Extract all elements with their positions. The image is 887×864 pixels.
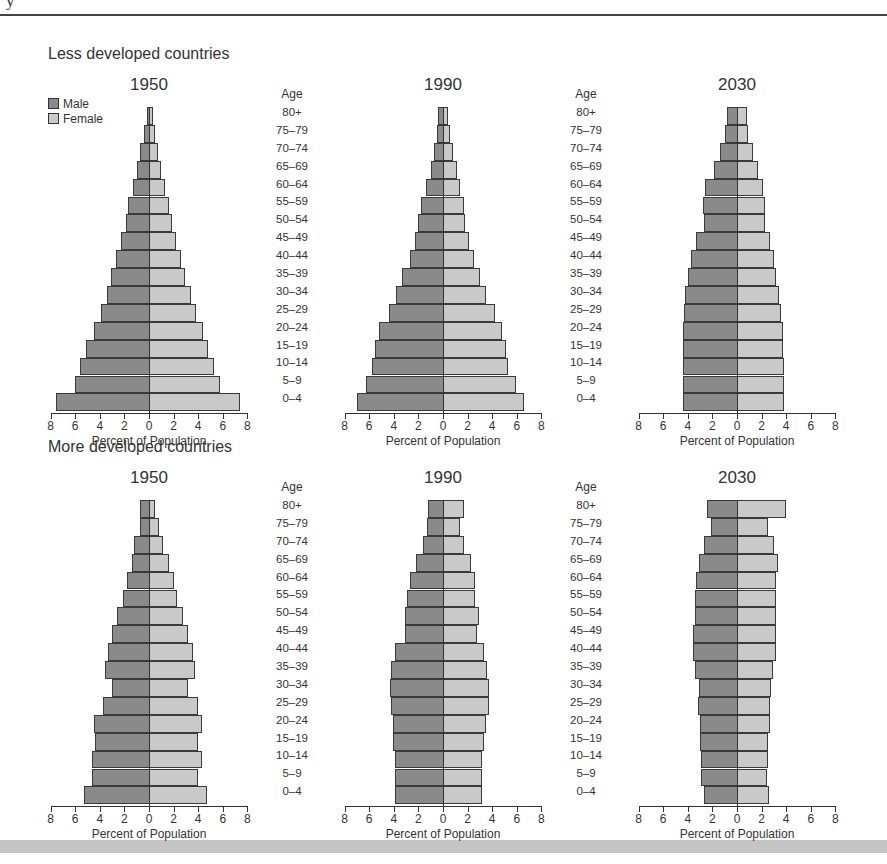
bar-male [92, 751, 150, 769]
bar-male [395, 751, 444, 769]
bar-female [443, 197, 464, 215]
x-axis-tick-label: 4 [482, 812, 502, 826]
bar-male [94, 715, 150, 733]
bar-male [693, 625, 738, 643]
bar-female [737, 643, 776, 661]
bar-male [92, 769, 150, 787]
female-swatch-icon [48, 113, 59, 124]
bar-female [149, 214, 172, 232]
x-axis-tick-label: 4 [90, 812, 110, 826]
age-label: 45–49 [556, 622, 616, 640]
bar-male [683, 376, 738, 394]
bar-female [443, 661, 487, 679]
bar-female [737, 250, 774, 268]
x-axis-tick-label: 2 [702, 419, 722, 433]
bar-female [149, 607, 183, 625]
header-rule [0, 14, 887, 16]
bar-male [705, 179, 738, 197]
panel-year-title: 1950 [49, 468, 249, 488]
bar-female [443, 536, 464, 554]
x-axis-tick-label: 4 [678, 419, 698, 433]
bar-female [149, 161, 161, 179]
bar-female [443, 232, 469, 250]
bar-female [149, 786, 207, 804]
bar-male [103, 697, 150, 715]
x-axis-tick-label: 4 [90, 419, 110, 433]
bar-male [416, 554, 444, 572]
age-label: 70–74 [556, 533, 616, 551]
clipped-header-text: y [6, 0, 15, 11]
x-axis-tick-label: 2 [752, 812, 772, 826]
bar-male [402, 268, 444, 286]
bar-female [737, 661, 773, 679]
panel-year-title: 2030 [637, 75, 837, 95]
x-axis-tick-label: 4 [482, 419, 502, 433]
age-label: 55–59 [556, 193, 616, 211]
bar-male [123, 590, 150, 608]
bar-female [443, 214, 465, 232]
bar-female [443, 322, 502, 340]
bar-female [443, 376, 516, 394]
bar-male [703, 197, 738, 215]
bar-female [737, 500, 786, 518]
x-axis-tick-label: 0 [433, 812, 453, 826]
age-label: 10–14 [556, 354, 616, 372]
bar-male [683, 322, 738, 340]
bar-female [443, 500, 464, 518]
x-axis-tick-label: 8 [629, 812, 649, 826]
age-label: 10–14 [262, 354, 322, 372]
x-axis-tick-label: 0 [139, 812, 159, 826]
age-label: 80+ [556, 497, 616, 515]
age-label: 15–19 [556, 730, 616, 748]
bar-female [737, 733, 768, 751]
bar-male [700, 715, 738, 733]
center-axis-line [149, 500, 150, 806]
bar-male [699, 554, 738, 572]
bar-male [128, 197, 150, 215]
x-axis-title: Percent of Population [637, 434, 837, 448]
center-axis-line [737, 500, 738, 806]
age-label: 65–69 [556, 551, 616, 569]
age-label: 5–9 [262, 765, 322, 783]
x-axis-tick-label: 2 [114, 419, 134, 433]
bar-male [105, 661, 150, 679]
bar-male [699, 679, 738, 697]
bar-female [737, 161, 758, 179]
bar-female [443, 143, 453, 161]
bar-male [80, 358, 150, 376]
x-axis-tick-label: 6 [359, 812, 379, 826]
age-label: 5–9 [556, 372, 616, 390]
bar-male [701, 769, 738, 787]
bar-female [149, 643, 193, 661]
bar-male [410, 250, 444, 268]
x-axis-title: Percent of Population [343, 827, 543, 841]
bar-female [443, 679, 489, 697]
x-axis-tick-label: 6 [507, 812, 527, 826]
age-label: 10–14 [556, 747, 616, 765]
bar-female [443, 518, 460, 536]
age-axis-labels: 80+75–7970–7465–6960–6455–5950–5445–4940… [556, 104, 616, 408]
bar-female [149, 340, 208, 358]
bar-female [443, 643, 484, 661]
bar-male [704, 536, 738, 554]
bar-female [737, 286, 779, 304]
bar-female [737, 304, 781, 322]
bar-male [127, 572, 150, 590]
x-axis-tick-label: 8 [41, 812, 61, 826]
age-label: 25–29 [262, 301, 322, 319]
x-axis-tick-label: 0 [727, 812, 747, 826]
age-label: 45–49 [556, 229, 616, 247]
age-label: 5–9 [262, 372, 322, 390]
age-label: 65–69 [262, 158, 322, 176]
bar-male [134, 536, 150, 554]
center-axis-line [737, 107, 738, 413]
age-label: 60–64 [262, 176, 322, 194]
bar-female [443, 715, 486, 733]
x-axis-tick-label: 8 [531, 812, 551, 826]
bar-male [683, 393, 738, 411]
bar-male [108, 643, 150, 661]
bar-female [737, 590, 776, 608]
bar-male [426, 179, 444, 197]
bar-female [737, 625, 776, 643]
bar-female [737, 393, 784, 411]
